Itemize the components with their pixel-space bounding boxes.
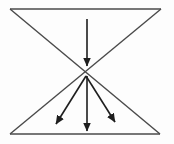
diagram-canvas [0,0,174,144]
fan-right-arrow [86,76,115,122]
hourglass-diagram [0,0,174,144]
